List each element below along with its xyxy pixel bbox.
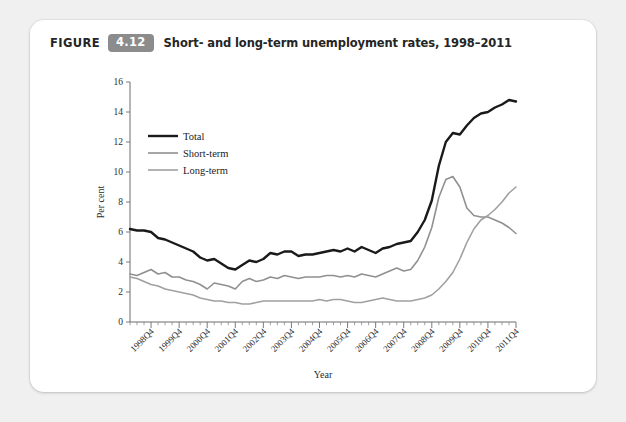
y-axis: 0246810121416 (114, 77, 131, 327)
y-tick-label: 6 (118, 227, 123, 237)
x-tick-label: 2003Q4 (269, 326, 297, 354)
y-axis-title: Per cent (95, 186, 106, 219)
x-tick-label: 2005Q4 (325, 326, 353, 354)
figure-page: FIGURE 4.12 Short- and long-term unemplo… (0, 0, 626, 422)
x-axis: 1998Q41999Q42000Q42001Q42002Q42003Q42004… (128, 322, 521, 354)
series-line-long-term (130, 187, 516, 304)
y-tick-label: 4 (118, 257, 123, 267)
legend-label-long-term: Long-term (183, 165, 228, 176)
x-tick-label: 2000Q4 (185, 326, 213, 354)
figure-card: FIGURE 4.12 Short- and long-term unemplo… (30, 20, 596, 392)
x-tick-label: 1999Q4 (156, 326, 184, 354)
x-tick-label: 2004Q4 (297, 326, 325, 354)
chart-canvas: 1998Q41999Q42000Q42001Q42002Q42003Q42004… (30, 20, 596, 392)
y-tick-label: 2 (118, 287, 123, 297)
y-tick-label: 0 (118, 317, 123, 327)
line-chart: 1998Q41999Q42000Q42001Q42002Q42003Q42004… (30, 20, 596, 392)
y-tick-label: 16 (114, 77, 124, 87)
x-tick-label: 2001Q4 (213, 326, 241, 354)
x-tick-label: 2006Q4 (353, 326, 381, 354)
x-tick-label: 1998Q4 (128, 326, 156, 354)
y-tick-label: 10 (114, 167, 124, 177)
y-tick-label: 8 (118, 197, 123, 207)
x-tick-label: 2002Q4 (241, 326, 269, 354)
legend-label-total: Total (183, 131, 205, 142)
series-line-short-term (130, 177, 516, 290)
x-tick-label: 2010Q4 (465, 326, 493, 354)
y-tick-label: 14 (114, 107, 124, 117)
x-tick-label: 2007Q4 (381, 326, 409, 354)
x-tick-label: 2009Q4 (437, 326, 465, 354)
x-tick-label: 2011Q4 (494, 326, 522, 354)
y-tick-label: 12 (114, 137, 124, 147)
chart-legend: TotalShort-termLong-term (148, 131, 229, 176)
x-tick-label: 2008Q4 (409, 326, 437, 354)
x-axis-title: Year (314, 369, 333, 380)
legend-label-short-term: Short-term (183, 148, 229, 159)
